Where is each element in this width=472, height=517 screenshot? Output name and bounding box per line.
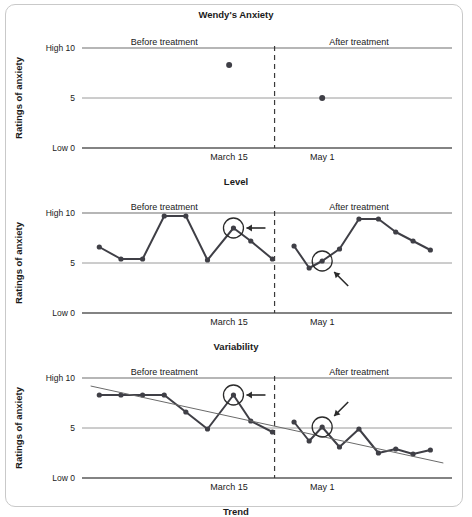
data-point [337, 246, 342, 251]
y-tick-label-10: High 10 [46, 43, 76, 53]
data-point [270, 256, 275, 261]
y-axis-label: Ratings of anxiety [13, 386, 24, 469]
data-point [393, 229, 398, 234]
data-point [162, 213, 167, 218]
date-label: May 1 [310, 152, 335, 162]
data-point [291, 243, 296, 248]
phase-label: Before treatment [131, 37, 199, 47]
panel-variability: High 105Low 0Ratings of anxietyBefore tr… [13, 202, 452, 352]
data-point [410, 238, 415, 243]
data-point [428, 247, 433, 252]
data-point [231, 225, 236, 230]
data-point [97, 244, 102, 249]
data-point [205, 426, 210, 431]
data-point [270, 429, 275, 434]
date-label: March 15 [210, 482, 248, 492]
date-label: March 15 [210, 317, 248, 327]
data-point [376, 450, 381, 455]
panel-level: High 105Low 0Ratings of anxietyBefore tr… [13, 37, 452, 187]
data-line-after-treatment [294, 219, 430, 268]
y-tick-label-10: High 10 [46, 373, 76, 383]
y-axis-label: Ratings of anxiety [13, 56, 24, 139]
data-point [162, 392, 167, 397]
y-tick-label-5: 5 [70, 423, 75, 433]
data-point [320, 424, 325, 429]
y-tick-label-0: Low 0 [52, 143, 75, 153]
y-tick-label-5: 5 [70, 258, 75, 268]
data-point [183, 213, 188, 218]
phase-label: Before treatment [131, 202, 199, 212]
data-point [356, 216, 361, 221]
data-point [97, 392, 102, 397]
date-label: May 1 [310, 317, 335, 327]
data-point [319, 95, 325, 101]
data-point [320, 258, 325, 263]
data-line-after-treatment [294, 422, 430, 454]
date-label: March 15 [210, 152, 248, 162]
data-point [118, 256, 123, 261]
y-tick-label-0: Low 0 [52, 473, 75, 483]
data-point [226, 62, 232, 68]
data-point [307, 438, 312, 443]
data-point [231, 392, 236, 397]
phase-label: After treatment [329, 37, 389, 47]
data-point [393, 446, 398, 451]
data-point [183, 409, 188, 414]
data-point [291, 419, 296, 424]
figure-root: Wendy's AnxietyHigh 105Low 0Ratings of a… [0, 0, 472, 517]
panel-title-trend: Trend [223, 506, 249, 517]
panel-trend: High 105Low 0Ratings of anxietyBefore tr… [13, 367, 452, 517]
data-line-before-treatment [99, 216, 272, 260]
trend-line [91, 386, 444, 463]
y-tick-label-10: High 10 [46, 208, 76, 218]
figure-canvas: Wendy's AnxietyHigh 105Low 0Ratings of a… [0, 0, 472, 517]
y-tick-label-0: Low 0 [52, 308, 75, 318]
data-point [205, 257, 210, 262]
date-label: May 1 [310, 482, 335, 492]
y-tick-label-5: 5 [70, 93, 75, 103]
phase-label: After treatment [329, 367, 389, 377]
data-point [337, 444, 342, 449]
data-point [248, 238, 253, 243]
annotation-arrowhead [246, 392, 252, 399]
y-axis-label: Ratings of anxiety [13, 221, 24, 304]
phase-label: Before treatment [131, 367, 199, 377]
data-point [356, 426, 361, 431]
annotation-arrowhead [246, 225, 252, 232]
data-point [376, 216, 381, 221]
data-point [428, 447, 433, 452]
data-point [307, 265, 312, 270]
phase-label: After treatment [329, 202, 389, 212]
panel-title-level: Level [224, 176, 248, 187]
panel-title-variability: Variability [214, 341, 260, 352]
figure-title: Wendy's Anxiety [198, 9, 274, 20]
data-point [140, 256, 145, 261]
